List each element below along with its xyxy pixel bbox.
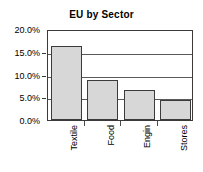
bar bbox=[87, 80, 118, 120]
chart-container: EU by Sector 0.0%5.0%10.0%15.0%20.0% Tex… bbox=[0, 0, 203, 172]
x-axis-category-label: Food bbox=[106, 125, 116, 171]
y-axis-tick-label: 0.0% bbox=[19, 116, 40, 126]
y-axis-tick-mark bbox=[42, 76, 46, 77]
bar bbox=[51, 46, 82, 120]
bar-series bbox=[48, 31, 192, 120]
x-axis-labels: TextileFoodEnginStores bbox=[47, 121, 193, 172]
y-axis-tick-label: 15.0% bbox=[14, 48, 40, 58]
y-axis-tick-label: 10.0% bbox=[14, 71, 40, 81]
x-axis-category-label: Engin bbox=[142, 125, 152, 171]
x-axis-category-label: Textile bbox=[69, 125, 79, 171]
y-axis-tick-mark bbox=[42, 98, 46, 99]
y-axis-tick-label: 5.0% bbox=[19, 93, 40, 103]
y-axis-tick-mark bbox=[42, 53, 46, 54]
y-axis: 0.0%5.0%10.0%15.0%20.0% bbox=[0, 30, 44, 121]
plot-area bbox=[47, 30, 193, 121]
bar bbox=[124, 90, 155, 120]
y-axis-tick-label: 20.0% bbox=[14, 25, 40, 35]
chart-title: EU by Sector bbox=[0, 9, 203, 20]
bar bbox=[160, 100, 191, 120]
x-axis-category-label: Stores bbox=[179, 125, 189, 171]
